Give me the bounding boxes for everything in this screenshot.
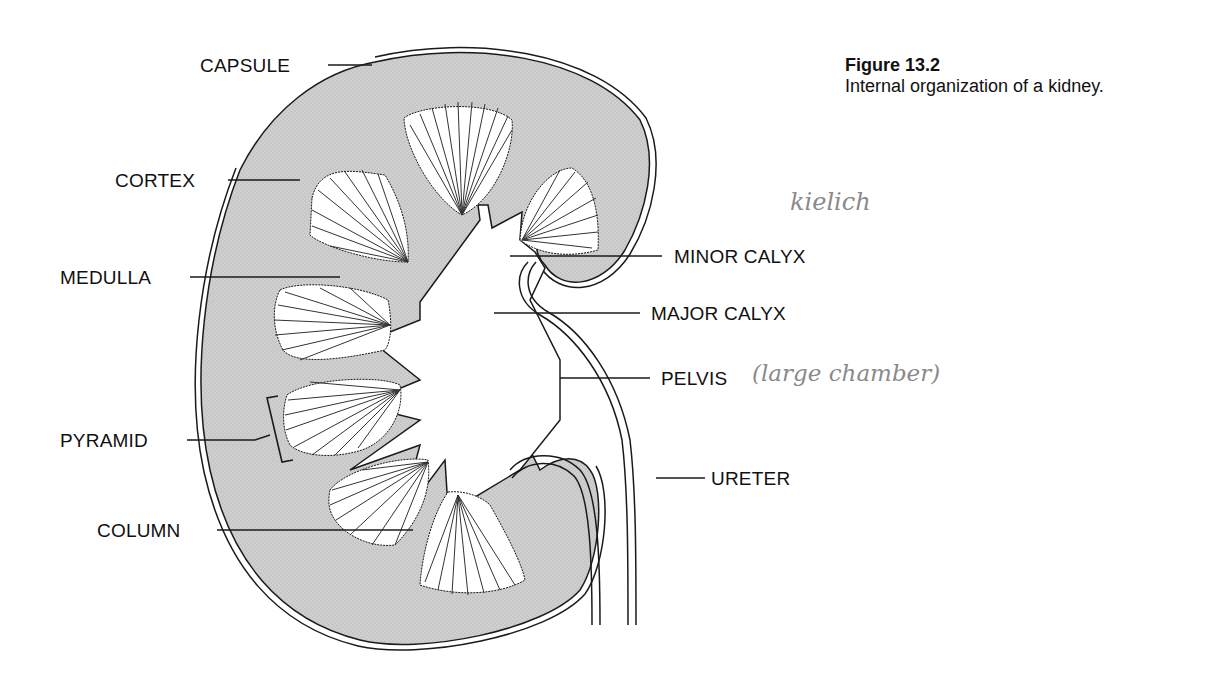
label-pelvis: PELVIS xyxy=(661,369,727,388)
figure-caption-text: Internal organization of a kidney. xyxy=(845,76,1104,97)
label-minor-calyx: MINOR CALYX xyxy=(674,247,806,266)
label-ureter: URETER xyxy=(711,469,790,488)
label-capsule: CAPSULE xyxy=(200,56,290,75)
figure-number: Figure 13.2 xyxy=(845,55,1104,76)
handwritten-note-kidney: kielich xyxy=(790,188,871,216)
pyramid-middle-left xyxy=(274,285,391,360)
label-cortex: CORTEX xyxy=(115,171,195,190)
label-medulla: MEDULLA xyxy=(60,268,151,287)
label-pyramid: PYRAMID xyxy=(60,431,148,450)
figure-caption: Figure 13.2 Internal organization of a k… xyxy=(845,55,1104,96)
kidney-diagram xyxy=(0,0,1212,690)
label-major-calyx: MAJOR CALYX xyxy=(651,304,786,323)
handwritten-note-pelvis: (large chamber) xyxy=(752,360,940,386)
label-column: COLUMN xyxy=(97,521,181,540)
